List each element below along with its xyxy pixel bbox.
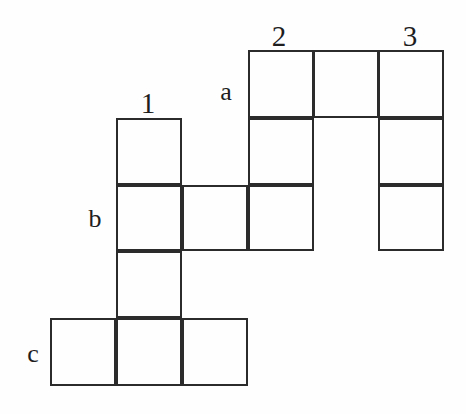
column-label-2: 2 bbox=[272, 22, 287, 51]
cell-r2-c4[interactable] bbox=[248, 118, 314, 185]
cell-c-c3[interactable] bbox=[182, 318, 248, 386]
column-label-3: 3 bbox=[403, 22, 418, 51]
cell-r2-c6[interactable] bbox=[378, 118, 444, 185]
row-label-b: b bbox=[89, 206, 102, 232]
cell-c-c2[interactable] bbox=[116, 318, 182, 386]
cell-a-c4[interactable] bbox=[248, 50, 314, 118]
cell-a-c6[interactable] bbox=[378, 50, 444, 118]
cell-r2-c2[interactable] bbox=[116, 118, 182, 185]
row-label-c: c bbox=[27, 341, 39, 367]
cell-b-c2[interactable] bbox=[116, 185, 182, 251]
cell-b-c6[interactable] bbox=[378, 185, 444, 251]
grid-diagram-figure: 123abc bbox=[0, 0, 466, 414]
cell-b-c3[interactable] bbox=[182, 185, 248, 251]
cell-c-c1[interactable] bbox=[50, 318, 116, 386]
row-label-a: a bbox=[220, 79, 232, 105]
cell-a-c5[interactable] bbox=[313, 50, 379, 118]
cell-b-c4[interactable] bbox=[248, 185, 314, 251]
column-label-1: 1 bbox=[141, 89, 156, 118]
cell-r4-c2[interactable] bbox=[116, 251, 182, 318]
